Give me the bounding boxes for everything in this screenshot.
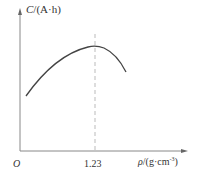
x-axis-arrow-icon <box>181 149 188 153</box>
x-axis-label: ρ/(g·cm-3) <box>138 156 178 167</box>
chart-area: C/(A·h) ρ/(g·cm-3) O 1.23 <box>0 0 212 177</box>
y-axis-arrow-icon <box>18 8 22 15</box>
origin-label: O <box>13 158 20 169</box>
x-tick-label: 1.23 <box>84 158 102 169</box>
y-axis-label: C/(A·h) <box>26 3 61 15</box>
capacity-curve <box>26 46 126 96</box>
plot-svg <box>0 0 212 177</box>
